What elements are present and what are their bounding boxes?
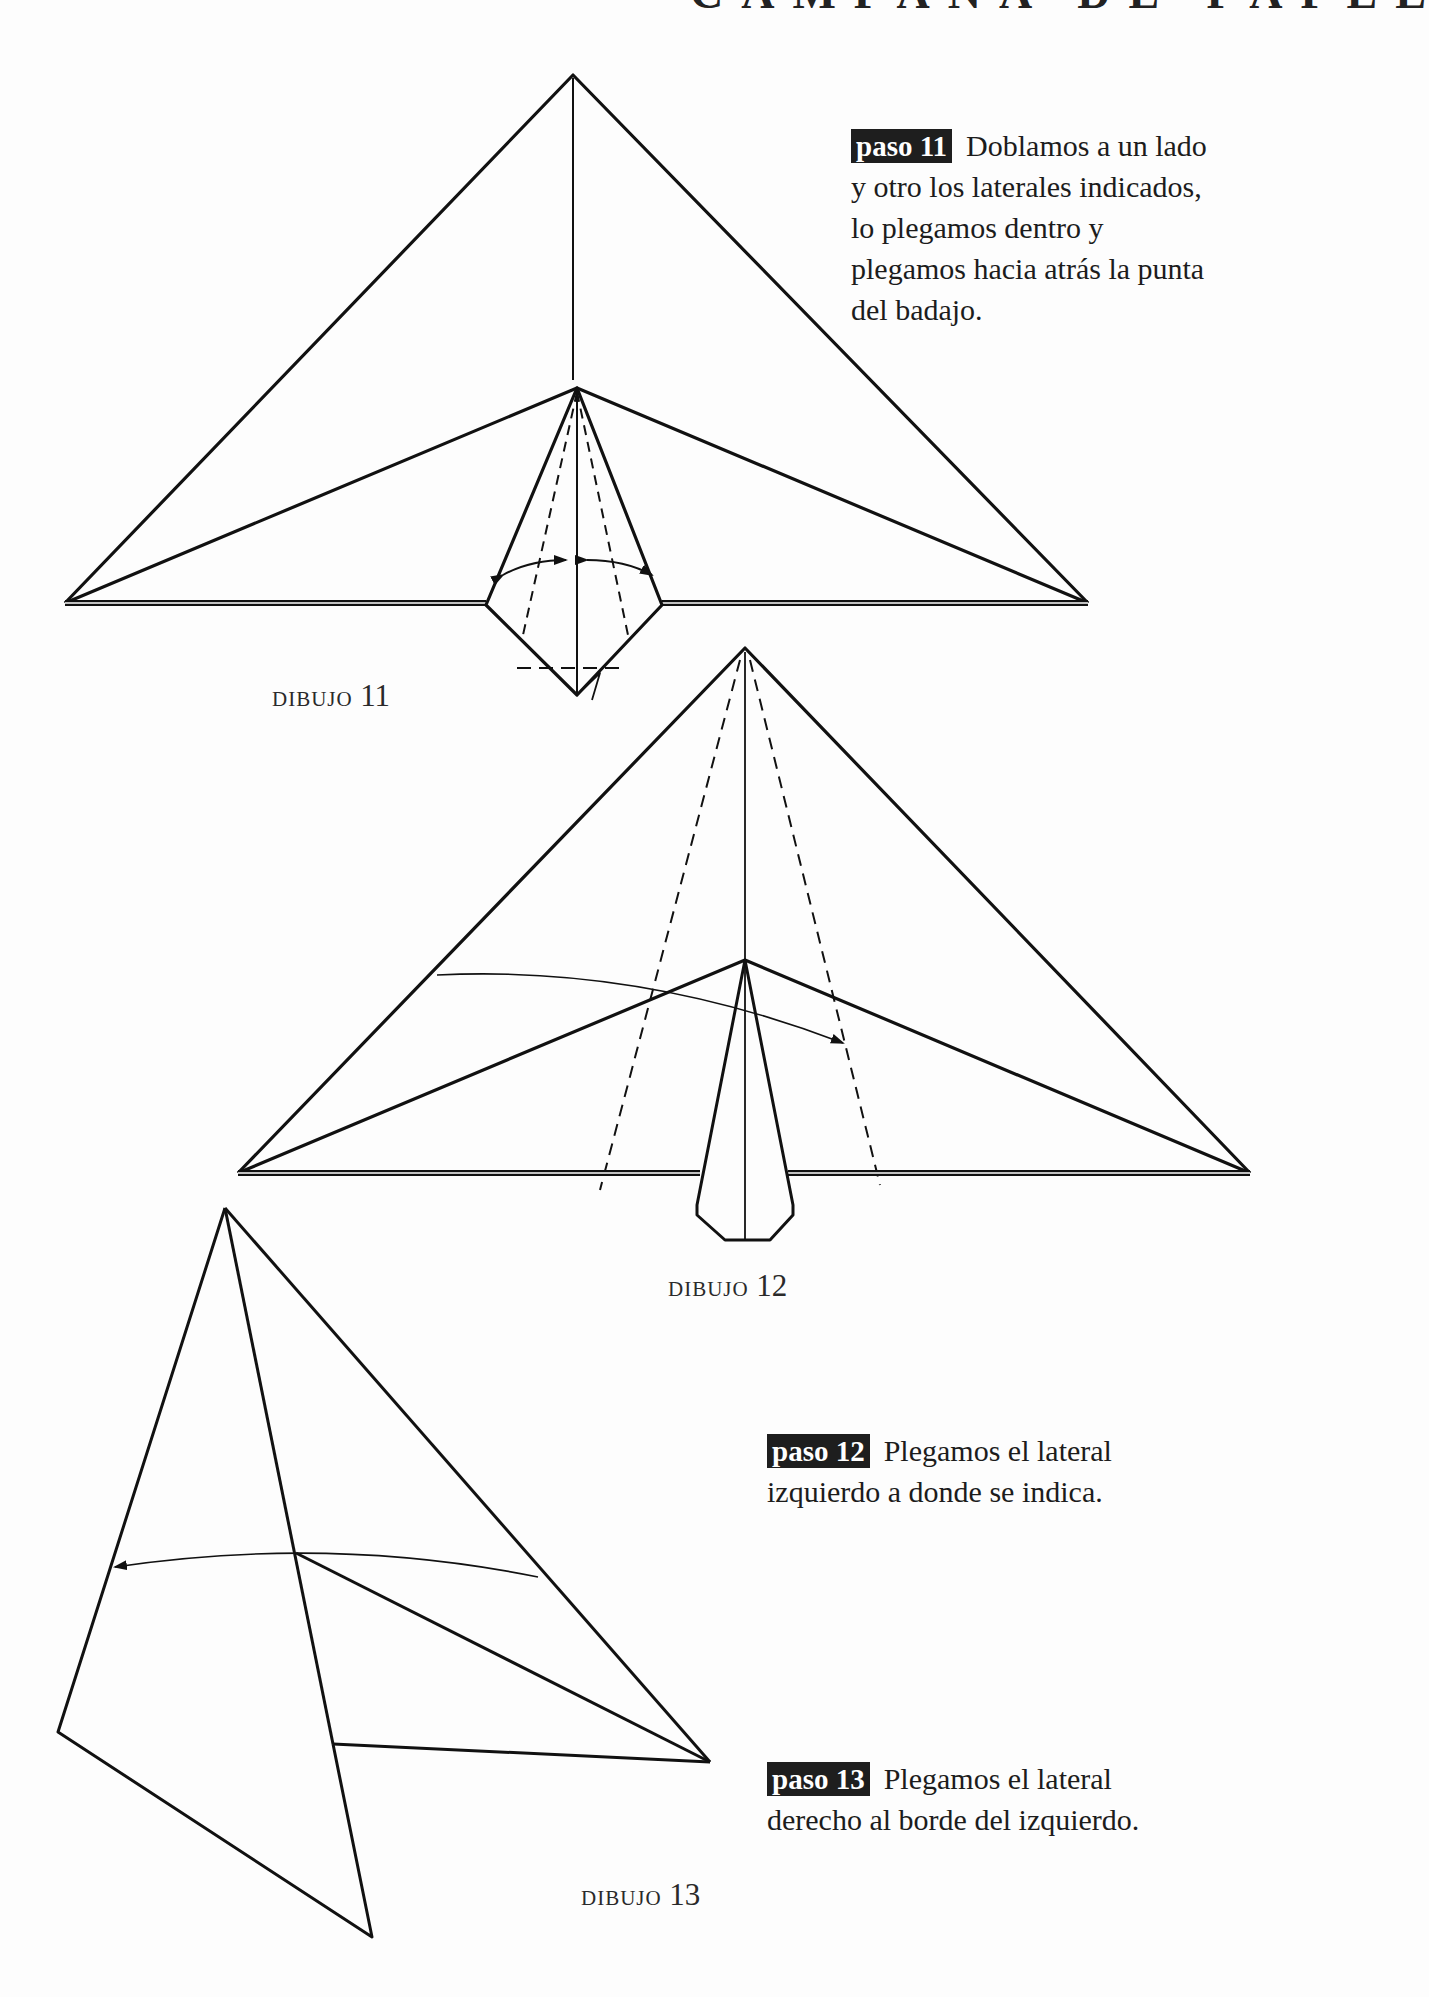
- step-12-badge: paso 12: [767, 1434, 870, 1468]
- diagram-13: [58, 1208, 710, 1937]
- d13-inner-line: [296, 1553, 710, 1762]
- caption-dibujo-12: dibujo 12: [668, 1268, 787, 1304]
- caption-number: 13: [669, 1877, 700, 1912]
- caption-word: dibujo: [668, 1269, 749, 1302]
- d13-crease: [225, 1208, 333, 1744]
- step-13-badge: paso 13: [767, 1762, 870, 1796]
- caption-number: 11: [360, 678, 390, 713]
- step-12-instruction: paso 12Plegamos el lateral izquierdo a d…: [767, 1430, 1187, 1512]
- caption-word: dibujo: [581, 1878, 662, 1911]
- diagram-12: [238, 648, 1250, 1240]
- d13-bottom-line: [333, 1744, 710, 1762]
- step-11-badge: paso 11: [851, 129, 952, 163]
- step-11-instruction: paso 11Doblamos a un lado y otro los lat…: [851, 125, 1211, 330]
- step-13-instruction: paso 13Plegamos el lateral derecho al bo…: [767, 1758, 1187, 1840]
- d13-right-edge: [225, 1208, 710, 1762]
- caption-word: dibujo: [272, 679, 353, 712]
- d13-fold-arrow: [115, 1553, 538, 1577]
- caption-dibujo-13: dibujo 13: [581, 1877, 700, 1913]
- d13-left-panel: [58, 1208, 372, 1937]
- d12-fold-arrow: [437, 974, 843, 1043]
- caption-number: 12: [756, 1268, 787, 1303]
- d11-clapper-flap: [486, 388, 662, 695]
- caption-dibujo-11: dibujo 11: [272, 678, 390, 714]
